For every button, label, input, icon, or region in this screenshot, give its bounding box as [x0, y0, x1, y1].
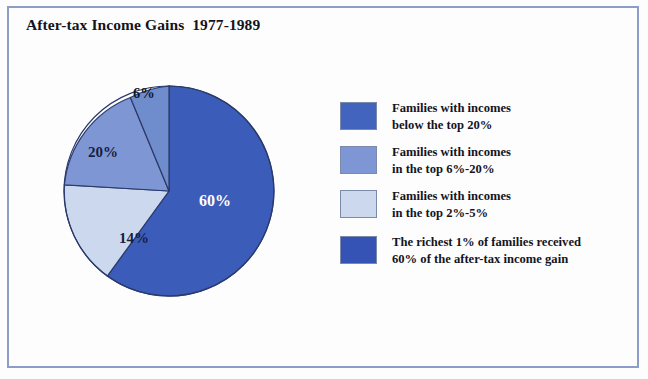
legend-swatch-icon: [340, 146, 377, 174]
legend-item-top-6-20: Families with incomes in the top 6%-20%: [340, 144, 511, 177]
legend-swatch-icon: [340, 190, 377, 218]
chart-title: After-tax Income Gains 1977-1989: [26, 16, 260, 34]
legend-item-below-top-20: Families with incomes below the top 20%: [340, 100, 511, 133]
pie-chart: 60% 14% 20% 6%: [60, 82, 278, 300]
legend-item-top-2-5: Families with incomes in the top 2%-5%: [340, 188, 511, 221]
chart-frame: After-tax Income Gains 1977-1989 60% 14%…: [7, 6, 639, 368]
legend-label: The richest 1% of families received 60% …: [392, 234, 581, 267]
pie-svg: [60, 82, 278, 300]
legend-label: Families with incomes in the top 6%-20%: [392, 144, 511, 177]
legend-item-richest-1: The richest 1% of families received 60% …: [340, 234, 581, 267]
legend-swatch-icon: [340, 236, 377, 264]
legend-swatch-icon: [340, 102, 377, 130]
legend-label: Families with incomes in the top 2%-5%: [392, 188, 511, 221]
legend-label: Families with incomes below the top 20%: [392, 100, 511, 133]
